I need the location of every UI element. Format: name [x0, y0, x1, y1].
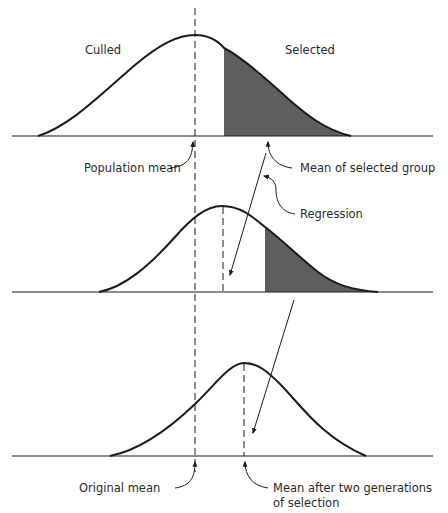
population-mean-label: Population mean	[84, 161, 181, 175]
panel-generation-0: Culled Selected Population mean Mean of …	[12, 35, 435, 175]
selected-area-shade	[265, 227, 378, 292]
selection-diagram: Culled Selected Population mean Mean of …	[0, 0, 448, 513]
original-mean-pointer	[175, 462, 195, 488]
selected-label: Selected	[285, 43, 335, 57]
distribution-curve	[110, 363, 366, 456]
mean-after-two-pointer	[245, 462, 268, 488]
mean-selected-pointer	[268, 142, 292, 168]
original-mean-label: Original mean	[79, 481, 160, 495]
regression-label: Regression	[300, 207, 363, 221]
culled-label: Culled	[85, 43, 121, 57]
mean-after-two-generations-label: Mean after two generations	[273, 481, 432, 495]
regression-pointer	[264, 176, 295, 214]
regression-arrow-1	[230, 153, 266, 275]
mean-selected-group-label: Mean of selected group	[300, 161, 435, 175]
mean-after-two-generations-label-2: of selection	[273, 496, 339, 510]
panel-generation-2: Original mean Mean after two generations…	[12, 300, 433, 510]
